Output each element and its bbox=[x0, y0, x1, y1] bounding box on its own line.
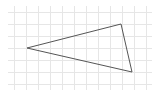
diagram-canvas bbox=[0, 0, 156, 96]
grid bbox=[8, 6, 152, 90]
